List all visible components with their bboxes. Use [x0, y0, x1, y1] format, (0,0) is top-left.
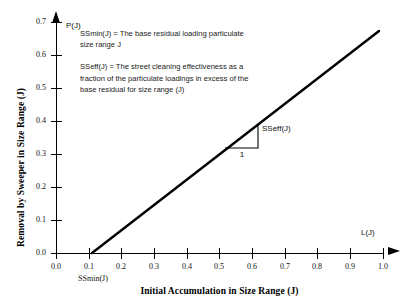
y-tick-label: 0.1: [24, 215, 46, 224]
sseff-definition-line-1: SSeff(J) = The street cleaning effective…: [80, 61, 295, 72]
x-tick-label: 1.0: [368, 262, 398, 271]
x-tick-0.7: [285, 248, 286, 259]
x-tick-label: 0.6: [237, 262, 267, 271]
x-tick-0.2: [121, 248, 122, 259]
sseff-definition-line-3: base residual for size range (J): [80, 84, 295, 95]
ssmin-definition-line-1: SSmin(J) = The base residual loading par…: [80, 28, 295, 39]
x-tick-0.1: [89, 248, 90, 259]
slope-run-label: 1: [232, 150, 252, 159]
x-tick-label: 0.3: [139, 262, 169, 271]
x-axis-title: Initial Accumulation in Size Range (J): [56, 286, 383, 296]
x-tick-label: 0.5: [204, 262, 234, 271]
x-tick-label: 0.1: [74, 262, 104, 271]
y-tick-label: 0.6: [24, 50, 46, 59]
x-tick-0.3: [154, 248, 155, 259]
definitions-annotation-block: SSmin(J) = The base residual loading par…: [80, 28, 295, 95]
x-tick-label: 0.8: [302, 262, 332, 271]
sseff-rise-label: SSeff(J): [262, 124, 291, 133]
y-tick-label: 0.5: [24, 83, 46, 92]
sseff-definition-line-2: fraction of the particulate loadings in …: [80, 73, 295, 84]
y-tick-label: 0.7: [24, 17, 46, 26]
x-tick-0.0: [56, 248, 57, 259]
x-tick-0.6: [252, 248, 253, 259]
y-axis-title: Removal by Sweeper in Size Range (J): [16, 88, 26, 247]
x-tick-0.9: [350, 248, 351, 259]
y-tick-label: 0.0: [24, 248, 46, 257]
x-tick-label: 0.0: [41, 262, 71, 271]
x-tick-0.4: [187, 248, 188, 259]
x-tick-label: 0.4: [172, 262, 202, 271]
x-tick-0.5: [219, 248, 220, 259]
chart-figure: 0.7 0.6 0.5 0.4 0.3 0.2 0.1 0.0 0.0 0.1 …: [0, 0, 409, 308]
annotation-spacer: [80, 50, 295, 61]
x-axis-variable-label: L(J): [361, 228, 375, 237]
x-tick-0.8: [317, 248, 318, 259]
slope-triangle: [225, 124, 258, 148]
x-tick-label: 0.2: [106, 262, 136, 271]
x-tick-1.0: [383, 248, 384, 259]
y-axis-variable-label: P(J): [66, 21, 81, 30]
x-tick-label: 0.7: [270, 262, 300, 271]
ssmin-definition-line-2: size range J: [80, 39, 295, 50]
y-tick-label: 0.3: [24, 149, 46, 158]
ssmin-axis-annotation: SSmin(J): [63, 274, 123, 283]
x-tick-label: 0.9: [335, 262, 365, 271]
y-tick-label: 0.2: [24, 182, 46, 191]
y-tick-label: 0.4: [24, 116, 46, 125]
x-axis-arrow-icon: [388, 247, 400, 255]
